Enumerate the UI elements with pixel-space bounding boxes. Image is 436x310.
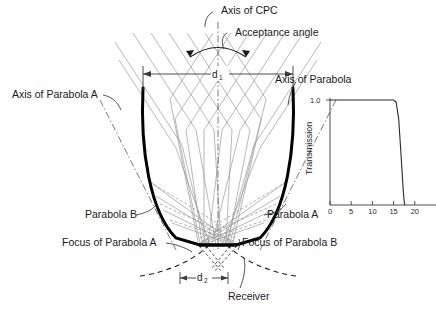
- leader-axis-of-parabola-a: [103, 95, 121, 110]
- leader-acceptance-angle: [222, 33, 227, 49]
- label-axis-of-cpc: Axis of CPC: [221, 4, 278, 16]
- receiver-dashed-arc-right: [228, 246, 296, 276]
- label-focus-of-parabola-b: Focus of Parabola B: [242, 236, 337, 248]
- label-receiver: Receiver: [228, 290, 270, 302]
- label-focus-of-parabola-a: Focus of Parabola A: [62, 236, 157, 248]
- parabola-a-axis-line: [100, 100, 176, 250]
- label-axis-of-parabola-a: Axis of Parabola A: [12, 88, 98, 100]
- receiver-dimension: d 2: [180, 270, 228, 284]
- leader-focus-a: [166, 243, 192, 252]
- chart-y-axis-title: Transmission: [304, 122, 314, 175]
- chart-x-tick-label: 5: [349, 207, 353, 216]
- chart-transmission-curve: [330, 100, 405, 205]
- chart-x-tick-label: 10: [368, 207, 376, 216]
- label-acceptance-angle: Acceptance angle: [235, 26, 319, 38]
- label-parabola-b: Parabola B: [85, 208, 137, 220]
- focus-ray-right-2: [212, 246, 230, 268]
- chart-x-ticks: 05101520: [328, 201, 419, 216]
- focus-ray-right: [214, 246, 237, 272]
- aperture-d1-symbol: d: [212, 69, 218, 80]
- aperture-d1-subscript: 1: [219, 74, 223, 81]
- leader-axis-of-cpc: [205, 12, 213, 27]
- chart-x-tick-label: 15: [389, 207, 397, 216]
- transmission-chart: 1.0 Transmission 05101520: [304, 96, 436, 216]
- label-axis-of-parabola-b: Axis of Parabola: [275, 73, 352, 85]
- receiver-d2-subscript: 2: [204, 277, 208, 284]
- parabola-a-wall: [236, 88, 294, 245]
- focus-ray-left-2: [206, 246, 224, 268]
- diagram-canvas: d 1 d 2 Axis of CPC Acceptance angle Axi…: [0, 0, 436, 310]
- leader-parabola-b: [136, 205, 156, 215]
- cpc-diagram-figure: d 1 d 2 Axis of CPC Acceptance angle Axi…: [0, 0, 436, 310]
- chart-x-tick-label: 0: [328, 207, 332, 216]
- chart-x-tick-label: 20: [411, 207, 419, 216]
- receiver-d2-symbol: d: [197, 272, 203, 283]
- leader-receiver: [240, 258, 245, 288]
- parabola-b-axis-line: [260, 100, 336, 250]
- label-parabola-a: Parabola A: [267, 208, 318, 220]
- chart-y-tick-label: 1.0: [310, 96, 320, 105]
- focus-ray-left: [199, 246, 222, 272]
